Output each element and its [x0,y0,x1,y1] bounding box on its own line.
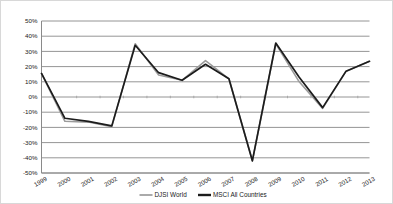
x-axis-tick-label: 2000 [56,175,72,188]
x-axis-tick-label: 2007 [220,175,236,188]
x-axis-tick-label: 2010 [290,175,306,188]
y-axis-tick-label: -10% [23,108,38,115]
x-axis-tick-label: 2006 [197,175,213,188]
x-axis-tick-label: 2011 [314,175,330,188]
y-axis-tick-label: -30% [23,139,38,146]
x-axis-tick-label: 2004 [150,175,166,188]
gridlines-group [42,21,370,173]
y-axis-tick-label: 20% [25,63,38,70]
chart-legend: DJSI WorldMSCI All Countries [140,191,267,198]
legend-label-msci-all-countries: MSCI All Countries [213,191,267,198]
x-axis-tick-label: 2013 [361,175,377,188]
y-axis-tick-label: 0% [29,93,38,100]
y-axis-tick-label: -50% [23,169,38,176]
y-axis-tick-label: 40% [25,32,38,39]
y-axis-tick-label: -20% [23,124,38,131]
x-axis-tick-label: 2005 [173,175,189,188]
x-axis-tick-label: 2002 [103,175,119,188]
y-axis-tick-label: 30% [25,48,38,55]
line-chart: 50%40%30%20%10%0%-10%-20%-30%-40%-50% 19… [1,1,393,204]
x-axis-tick-label: 2003 [126,175,142,188]
x-axis-tick-label: 2009 [267,175,283,188]
x-axis-tick-label: 1999 [33,175,49,188]
series-group [42,43,370,161]
y-axis-tick-label: 50% [25,17,38,24]
legend-label-djsi-world: DJSI World [155,191,188,198]
series-line-djsi-world [42,44,370,161]
y-axis-tick-labels: 50%40%30%20%10%0%-10%-20%-30%-40%-50% [23,17,38,176]
x-axis-tick-labels: 1999200020012002200320042005200620072008… [33,175,377,188]
chart-card: 50%40%30%20%10%0%-10%-20%-30%-40%-50% 19… [0,0,393,204]
y-axis-tick-label: 10% [25,78,38,85]
y-axis-tick-label: -40% [23,154,38,161]
chart-plot-area: 50%40%30%20%10%0%-10%-20%-30%-40%-50% 19… [1,1,393,204]
x-axis-tick-label: 2001 [79,175,95,188]
x-axis-tick-label: 2012 [337,175,353,188]
x-axis-tick-label: 2008 [243,175,259,188]
